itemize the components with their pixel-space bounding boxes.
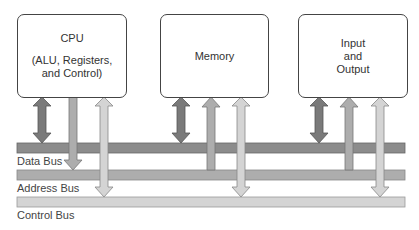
control-bus [17,197,405,207]
memory-title: Memory [195,50,235,63]
data-bus-label: Data Bus [17,155,62,167]
cpu-subtitle-line2: and Control) [42,67,103,80]
cpu-title: CPU [60,32,83,45]
control-bus-label: Control Bus [17,209,74,221]
cpu-box: CPU (ALU, Registers, and Control) [17,14,127,98]
io-line2: and [344,50,362,63]
memory-data-arrow-icon [172,97,190,143]
address-bus [17,170,405,180]
io-data-arrow-icon [310,97,328,143]
cpu-address-arrow-icon [64,97,82,170]
memory-address-arrow-icon [202,97,220,170]
cpu-subtitle-line1: (ALU, Registers, [32,54,113,67]
io-line1: Input [341,37,365,50]
cpu-data-arrow-icon [33,97,51,143]
memory-box: Memory [160,14,269,98]
io-box: Input and Output [298,14,408,98]
address-bus-label: Address Bus [17,182,79,194]
io-address-arrow-icon [340,97,358,170]
io-line3: Output [336,63,369,76]
